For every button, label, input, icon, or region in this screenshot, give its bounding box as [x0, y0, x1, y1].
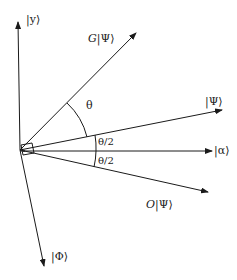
y-vector [18, 22, 20, 150]
phi-label: |Φ⟩ [51, 251, 68, 262]
half-theta-upper-text: θ/2 [98, 136, 114, 147]
g-psi-vector [20, 33, 136, 150]
psi-vector [20, 110, 222, 150]
half-theta-upper-label: θ/2 [98, 137, 114, 147]
y-ket: |y⟩ [26, 13, 40, 26]
grover-rotation-diagram [0, 0, 237, 280]
o-operator: O [146, 198, 155, 211]
theta-arc [67, 103, 87, 137]
half-theta-arc-lower [94, 151, 96, 167]
psi-label: |Ψ⟩ [205, 96, 223, 107]
theta-label: θ [86, 100, 93, 111]
alpha-ket: |α⟩ [214, 144, 229, 157]
o-psi-vector [20, 150, 208, 192]
g-psi-label: G|Ψ⟩ [88, 33, 114, 44]
o-psi-label: O|Ψ⟩ [146, 199, 173, 210]
psi-ket: |Ψ⟩ [205, 95, 223, 108]
y-label: |y⟩ [26, 14, 40, 25]
alpha-label: |α⟩ [214, 145, 229, 156]
o-psi-ket: |Ψ⟩ [155, 198, 173, 211]
origin-dot [23, 150, 25, 152]
phi-ket: |Φ⟩ [51, 250, 68, 263]
half-theta-lower-text: θ/2 [98, 155, 114, 166]
g-psi-ket: |Ψ⟩ [97, 32, 115, 45]
theta-text: θ [86, 99, 93, 112]
half-theta-arc-upper [95, 135, 96, 151]
phi-vector [20, 150, 44, 266]
half-theta-lower-label: θ/2 [98, 156, 114, 166]
g-operator: G [88, 32, 97, 45]
